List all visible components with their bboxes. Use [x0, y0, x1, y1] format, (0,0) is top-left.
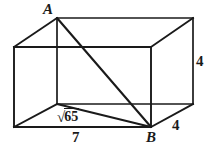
- back-face-edges: [57, 18, 193, 104]
- depth-edge-bottom-left: [14, 104, 57, 127]
- measure-label-right-height: 4: [196, 54, 204, 69]
- depth-edge-top-right: [151, 18, 193, 47]
- vertex-label-b: B: [146, 130, 156, 145]
- radicand-value: 65: [64, 108, 79, 124]
- depth-edge-top-left: [14, 18, 57, 47]
- measure-label-depth: 4: [172, 118, 180, 133]
- measure-label-base-diagonal: √65: [57, 110, 79, 125]
- vertex-label-a: A: [43, 2, 53, 17]
- measure-label-bottom-width: 7: [72, 130, 80, 145]
- geometry-figure-canvas: A B 4 4 7 √65: [0, 0, 212, 153]
- prism-drawing: [0, 0, 212, 153]
